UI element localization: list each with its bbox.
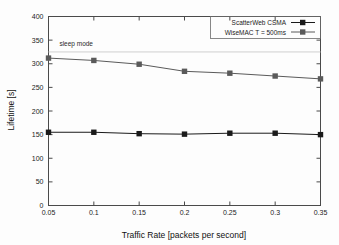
- y-tick-label: 300: [32, 60, 44, 67]
- x-tick-label: 0.25: [223, 209, 237, 216]
- annotation-group: sleep mode: [49, 40, 321, 52]
- y-tick-label: 100: [32, 155, 44, 162]
- x-tick-label: 0.35: [314, 209, 328, 216]
- y-tick-label: 50: [36, 178, 44, 185]
- series-line: [49, 58, 321, 79]
- data-point-marker: [182, 69, 187, 74]
- x-axis-title: Traffic Rate [packets per second]: [122, 230, 246, 240]
- x-tick-label: 0.3: [270, 209, 280, 216]
- data-point-marker: [272, 73, 277, 78]
- y-tick-label: 400: [32, 13, 44, 20]
- chart-legend: ScatterWeb CSMA WiseMAC T = 500ms: [211, 17, 321, 39]
- y-tick-label: 250: [32, 84, 44, 91]
- data-point-marker: [46, 55, 51, 60]
- x-tick-label: 0.1: [89, 209, 99, 216]
- data-point-marker: [46, 130, 51, 135]
- y-axis-title: Lifetime [s]: [6, 89, 16, 130]
- series-0: [46, 130, 323, 138]
- line-chart: 050100150200250300350400 0.050.10.150.20…: [0, 0, 339, 245]
- data-point-marker: [318, 76, 323, 81]
- legend-label-1: WiseMAC T = 500ms: [225, 29, 287, 36]
- legend-label-0: ScatterWeb CSMA: [232, 19, 287, 26]
- legend-sample-0: [291, 20, 315, 25]
- data-point-marker: [182, 131, 187, 136]
- data-point-marker: [136, 62, 141, 67]
- data-point-marker: [91, 130, 96, 135]
- y-tick-label: 200: [32, 108, 44, 115]
- data-point-marker: [318, 132, 323, 137]
- data-point-marker: [91, 58, 96, 63]
- y-tick-label: 350: [32, 37, 44, 44]
- data-point-marker: [227, 71, 232, 76]
- series-1: [46, 55, 323, 81]
- sleep-mode-label: sleep mode: [59, 40, 93, 48]
- data-point-marker: [272, 131, 277, 136]
- legend-sample-1: [291, 29, 315, 34]
- x-tick-label: 0.15: [132, 209, 146, 216]
- y-tick-label: 150: [32, 131, 44, 138]
- x-tick-label: 0.2: [180, 209, 190, 216]
- x-tick-label: 0.05: [42, 209, 56, 216]
- data-series-group: [46, 55, 323, 137]
- data-point-marker: [136, 131, 141, 136]
- data-point-marker: [227, 131, 232, 136]
- chart-figure: 050100150200250300350400 0.050.10.150.20…: [0, 0, 339, 245]
